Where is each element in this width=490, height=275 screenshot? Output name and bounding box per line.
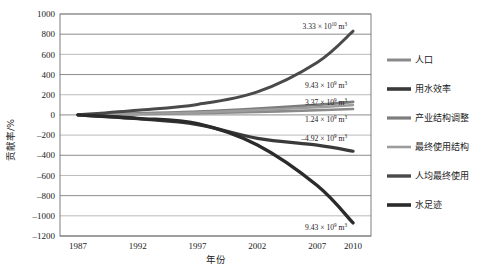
legend-label-水足迹[interactable]: 水足迹 [415, 199, 442, 210]
annot-water-footprint: 9.43 × 109 m3 [305, 222, 347, 232]
y-axis-tick-label: 600 [42, 50, 56, 60]
annot-water-efficiency: 9.43 × 109 m3 [305, 80, 347, 90]
x-axis-tick-label: 1987 [69, 241, 88, 251]
legend-label-产业结构调整[interactable]: 产业结构调整 [415, 112, 469, 123]
y-axis-tick-label: –1000 [32, 211, 56, 221]
y-axis-tick-label: –600 [36, 171, 56, 181]
legend-label-用水效率[interactable]: 用水效率 [415, 83, 451, 94]
y-axis-tick-label: 800 [42, 29, 56, 39]
y-axis-title: 贡献率/% [5, 119, 16, 161]
legend-label-人均最终使用[interactable]: 人均最终使用 [415, 170, 469, 181]
y-axis-tick-label: 0 [51, 110, 56, 120]
x-axis-tick-label: 1992 [129, 241, 147, 251]
chart-figure: 10008006004002000–200–400–600–800–1000–1… [0, 0, 490, 275]
y-axis-tick-label: 1000 [37, 9, 56, 19]
y-axis-tick-label: –1200 [32, 231, 56, 241]
annot-final-use-structure: 1.24 × 109 m3 [305, 114, 347, 124]
x-axis-tick-label: 2010 [344, 241, 363, 251]
legend-label-人口[interactable]: 人口 [415, 55, 433, 65]
x-axis-title: 年份 [206, 254, 226, 265]
y-axis-tick-label: 200 [42, 90, 56, 100]
y-axis-tick-label: 400 [42, 70, 56, 80]
x-axis-tick-label: 2007 [308, 241, 327, 251]
annot-industry-structure: 3.37 × 109 m3 [305, 97, 347, 107]
legend-label-最终使用结构[interactable]: 最终使用结构 [415, 141, 469, 152]
x-axis-tick-label: 2002 [248, 241, 266, 251]
contribution-rate-line-chart: 10008006004002000–200–400–600–800–1000–1… [0, 0, 490, 275]
annot-per-capita-final-use: –4.92 × 109 m3 [300, 133, 347, 143]
x-axis-tick-label: 1997 [189, 241, 208, 251]
y-axis-tick-label: –400 [36, 150, 56, 160]
y-axis-tick-label: –800 [36, 191, 56, 201]
y-axis-tick-label: –200 [36, 130, 56, 140]
annot-population-total: 3.33 × 1010 m3 [302, 21, 347, 31]
